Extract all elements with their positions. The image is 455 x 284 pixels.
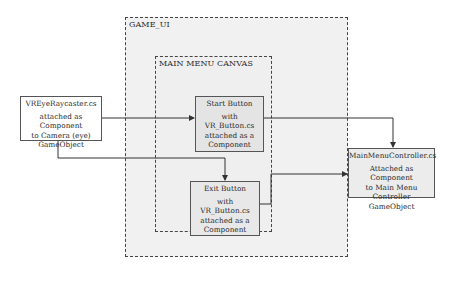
- node-title: Start Button: [196, 99, 263, 109]
- node-line: GameObject: [349, 202, 434, 212]
- node-line: with VR_Button.cs: [196, 112, 263, 131]
- node-line: attached as a: [191, 216, 259, 226]
- exit-button-node: Exit Button with VR_Button.cs attached a…: [190, 181, 260, 236]
- node-line: attached as Component: [21, 112, 101, 131]
- node-title: MainMenuController.cs: [349, 151, 434, 161]
- main-menu-canvas-label: MAIN MENU CANVAS: [159, 59, 253, 68]
- node-title: VREyeRaycaster.cs: [21, 99, 101, 109]
- vreye-raycaster-node: VREyeRaycaster.cs attached as Component …: [20, 96, 102, 141]
- node-line: GameObject: [21, 140, 101, 150]
- node-line: Component: [191, 225, 259, 235]
- node-line: to Camera (eye): [21, 131, 101, 141]
- node-title: Exit Button: [191, 184, 259, 194]
- node-line: attached as a: [196, 131, 263, 141]
- node-line: Attached as Component: [349, 164, 434, 183]
- game-ui-label: GAME_UI: [129, 20, 170, 29]
- start-button-node: Start Button with VR_Button.cs attached …: [195, 96, 264, 152]
- main-menu-controller-node: MainMenuController.cs Attached as Compon…: [348, 148, 435, 198]
- node-line: with VR_Button.cs: [191, 197, 259, 216]
- node-line: to Main Menu Controller: [349, 183, 434, 202]
- node-line: Component: [196, 140, 263, 150]
